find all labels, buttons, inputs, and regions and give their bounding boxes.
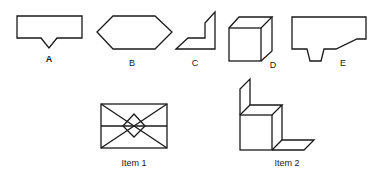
option-b: B xyxy=(97,16,172,68)
label-e: E xyxy=(340,58,346,68)
shape-c xyxy=(176,12,215,49)
diagram-canvas: A B C D E Item 1 xyxy=(0,0,382,177)
option-e: E xyxy=(292,17,366,68)
option-a: A xyxy=(17,16,82,64)
label-item-2: Item 2 xyxy=(274,158,299,168)
shape-a xyxy=(17,16,82,48)
label-item-1: Item 1 xyxy=(121,158,146,168)
item-2-figure xyxy=(240,79,314,150)
label-a: A xyxy=(46,54,53,64)
shape-e xyxy=(292,17,366,61)
item-1: Item 1 xyxy=(101,104,167,168)
option-c: C xyxy=(176,12,215,68)
label-c: C xyxy=(192,58,199,68)
item-1-envelope xyxy=(101,104,167,148)
item-2: Item 2 xyxy=(240,79,314,168)
label-b: B xyxy=(129,58,135,68)
label-d: D xyxy=(270,60,277,70)
option-d: D xyxy=(229,17,277,70)
shape-d-cube xyxy=(229,17,272,61)
shape-b-hexagon xyxy=(97,16,172,49)
